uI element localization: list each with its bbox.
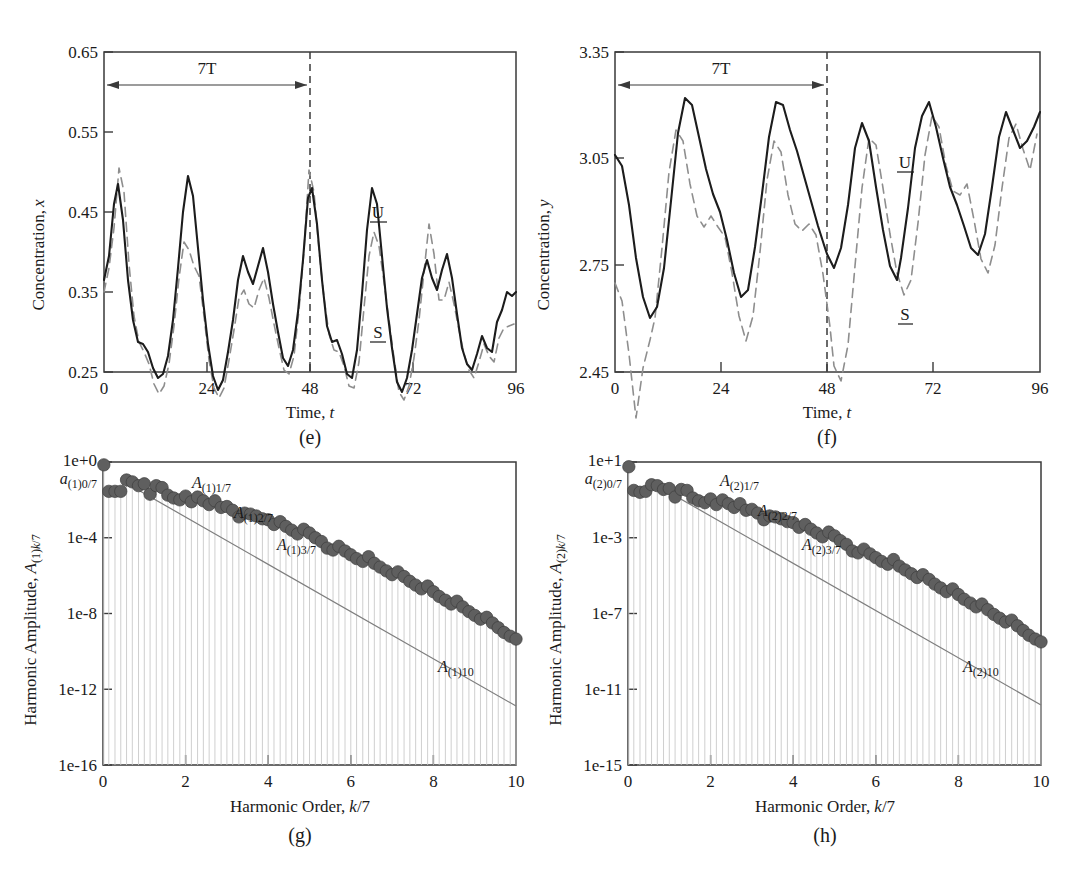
- panel-g-xtick-2: 4: [264, 772, 273, 791]
- panel-e-label-s: S: [370, 323, 386, 342]
- panel-f-xtick-3: 72: [925, 379, 942, 398]
- panel-e-ytick-4: 0.25: [68, 363, 98, 382]
- panel-f-xtick-2: 48: [819, 379, 836, 398]
- svg-text:S: S: [900, 305, 909, 324]
- panel-h-xlabel: Harmonic Order,k/7: [755, 797, 896, 816]
- panel-g-ytick-2: 1e-8: [67, 604, 97, 623]
- panel-f-xlabel: Time,t: [803, 403, 853, 422]
- panel-h-x-axis: 0 2 4 6 8 10: [624, 755, 1050, 791]
- panel-e-ylabel: Concentration,x: [29, 199, 48, 311]
- panel-h-xtick-4: 8: [954, 772, 963, 791]
- panel-f-ylabel: Concentration,y: [534, 199, 553, 311]
- panel-e-xtick-2: 48: [302, 379, 319, 398]
- panel-f-label-s: S: [898, 305, 913, 324]
- spectrum-marker: [98, 459, 110, 471]
- panel-e-ytick-2: 0.45: [68, 203, 98, 222]
- svg-text:U: U: [899, 153, 911, 172]
- panel-g-xtick-1: 2: [181, 772, 190, 791]
- panel-e-period-label: 7T: [198, 59, 218, 78]
- panel-h-xtick-1: 2: [706, 772, 715, 791]
- panel-g-ytick-4: 1e-16: [58, 756, 97, 775]
- panel-e-ytick-1: 0.55: [68, 123, 98, 142]
- panel-f-label-u: U: [897, 153, 914, 172]
- panel-f-ytick-3: 2.45: [579, 363, 609, 382]
- panel-g-ytick-0: 1e+0: [63, 451, 97, 470]
- panel-h-dc-label: a(2)0/7: [585, 470, 622, 491]
- panel-f-x-axis: 0 24 48 72 96: [611, 362, 1049, 398]
- panel-h-xtick-3: 6: [872, 772, 881, 791]
- panel-g-xlabel: Harmonic Order,k/7: [230, 797, 371, 816]
- spectrum-marker: [623, 461, 635, 473]
- panel-h-xtick-2: 4: [789, 772, 798, 791]
- panel-h-ytick-4: 1e-15: [583, 756, 622, 775]
- panel-f-period-label: 7T: [712, 59, 732, 78]
- panel-h-ytick-3: 1e-11: [584, 680, 622, 699]
- panel-g-ytick-1: 1e-4: [67, 528, 98, 547]
- panel-h-stems: [629, 473, 1041, 765]
- panel-e-y-axis: 0.65 0.55 0.45 0.35 0.25: [68, 43, 113, 382]
- panel-e-x-axis: 0 24 48 72 96: [100, 362, 525, 398]
- svg-text:S: S: [373, 323, 382, 342]
- panel-g-xtick-0: 0: [99, 772, 108, 791]
- panel-f-ytick-2: 2.75: [579, 256, 609, 275]
- panel-f-ytick-1: 3.05: [579, 149, 609, 168]
- panel-e-period-arrow: 7T: [107, 59, 307, 89]
- panel-h-xtick-0: 0: [624, 772, 633, 791]
- panel-e-ytick-3: 0.35: [68, 283, 98, 302]
- panel-h-annotation-0: A(2)1/7: [719, 472, 759, 493]
- panel-g-letter: (g): [288, 824, 311, 847]
- svg-text:U: U: [372, 203, 384, 222]
- panel-e-label-u: U: [370, 203, 387, 222]
- panel-e-xlabel: Time,t: [286, 403, 336, 422]
- panel-f-ytick-0: 3.35: [579, 43, 609, 62]
- panel-g-ylabel: Harmonic Amplitude,A(1)k/7: [21, 534, 43, 725]
- panel-f: Concentration,y 3.35 3.05 2.75 2.45 0 24…: [500, 20, 1088, 440]
- panel-h-xtick-5: 10: [1033, 772, 1050, 791]
- spectrum-marker: [1035, 636, 1047, 648]
- panel-g-stems: [104, 471, 516, 765]
- panel-h-ytick-0: 1e+1: [588, 451, 622, 470]
- panel-g-xtick-4: 8: [429, 772, 438, 791]
- panel-e-xtick-0: 0: [100, 379, 109, 398]
- panel-g: Harmonic Amplitude,A(1)k/7 1e+0 1e-4 1e-…: [0, 440, 545, 870]
- panel-e-ytick-0: 0.65: [68, 43, 98, 62]
- panel-g-x-axis: 0 2 4 6 8 10: [99, 755, 525, 791]
- panel-h-letter: (h): [813, 824, 836, 847]
- panel-e: Concentration,x 0.65 0.55 0.45 0.35 0.25: [0, 20, 545, 440]
- panel-f-xtick-1: 24: [713, 379, 731, 398]
- panel-h-annotation-3: A(2)10: [962, 658, 999, 679]
- panel-f-xtick-0: 0: [611, 379, 620, 398]
- panel-h: Harmonic Amplitude,A(2)k/7 1e+1 1e-3 1e-…: [500, 440, 1088, 870]
- panel-e-xtick-3: 72: [405, 379, 422, 398]
- panel-h-ytick-2: 1e-7: [592, 604, 623, 623]
- panel-f-y-axis: 3.35 3.05 2.75 2.45: [579, 43, 624, 382]
- panel-g-annotation-3: A(1)10: [437, 658, 474, 679]
- panel-g-xtick-3: 6: [347, 772, 356, 791]
- spectrum-marker: [115, 485, 127, 497]
- panel-f-xtick-4: 96: [1032, 379, 1049, 398]
- panel-f-period-arrow: 7T: [618, 59, 824, 89]
- figure-container: Concentration,x 0.65 0.55 0.45 0.35 0.25: [0, 0, 1088, 884]
- panel-h-ytick-1: 1e-3: [592, 528, 622, 547]
- panel-g-dc-label: a(1)0/7: [60, 470, 97, 491]
- panel-h-ylabel: Harmonic Amplitude,A(2)k/7: [546, 534, 568, 725]
- panel-g-ytick-3: 1e-12: [58, 680, 97, 699]
